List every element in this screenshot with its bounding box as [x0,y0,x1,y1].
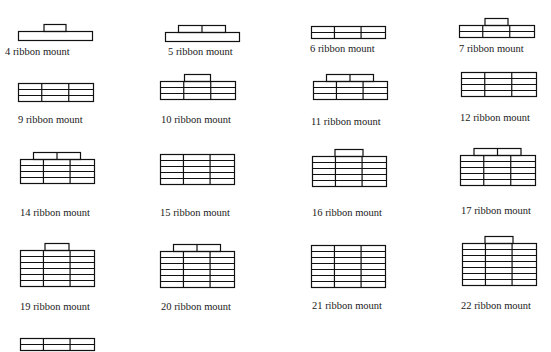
ribbon-mount-label: 9 ribbon mount [18,114,83,125]
ribbon-mount-label: 20 ribbon mount [161,301,231,312]
ribbon-mount-label: 19 ribbon mount [20,301,90,312]
ribbon-mount-label: 16 ribbon mount [312,207,382,218]
ribbon-mount-drawing [18,83,95,103]
ribbon-mount-drawing [160,74,237,101]
ribbon-mount-drawing [311,26,387,40]
ribbon-mount-drawing [311,245,387,289]
ribbon-mount-label: 10 ribbon mount [161,114,231,125]
ribbon-mount-label: 14 ribbon mount [20,207,90,218]
ribbon-mount-label: 4 ribbon mount [5,46,70,57]
ribbon-mount-drawing [20,152,96,185]
ribbon-mount-label: 6 ribbon mount [310,43,375,54]
ribbon-mount-drawing [20,243,96,288]
ribbon-mount-drawing [460,148,537,187]
ribbon-mount-drawing [461,72,538,98]
ribbon-mount-drawing [18,24,94,42]
ribbon-mount-label: 7 ribbon mount [459,43,524,54]
ribbon-mount-label: 15 ribbon mount [160,207,230,218]
ribbon-mount-drawing [313,74,389,101]
ribbon-mount-label: 17 ribbon mount [461,205,531,216]
ribbon-mount-drawing [160,244,236,289]
ribbon-mount-label: 22 ribbon mount [461,300,531,311]
ribbon-mount-drawing [160,154,236,186]
ribbon-mount-drawing [459,18,536,39]
ribbon-mount-label: 5 ribbon mount [168,46,233,57]
ribbon-mount-drawing [165,25,241,43]
ribbon-mount-drawing [462,236,538,287]
ribbon-mount-label: 21 ribbon mount [312,300,382,311]
ribbon-mount-label: 12 ribbon mount [460,112,530,123]
ribbon-mount-label: 11 ribbon mount [311,116,381,127]
ribbon-mount-drawing [312,149,388,188]
ribbon-mount-drawing [20,338,96,352]
